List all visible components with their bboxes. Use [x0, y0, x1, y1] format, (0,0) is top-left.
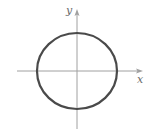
circle-diagram: y x: [0, 0, 157, 131]
x-axis-label: x: [137, 74, 143, 85]
plot-canvas: [0, 0, 157, 131]
y-axis-label: y: [66, 5, 72, 16]
